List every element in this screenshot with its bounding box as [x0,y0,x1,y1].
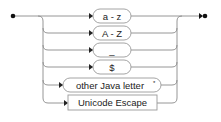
arrow-icon [59,82,63,88]
end-arrow-icon [199,13,203,19]
arrow-icon [89,13,93,19]
label-underscore: _ [108,45,115,56]
end-dot-icon [203,14,208,19]
arrow-icon [89,47,93,53]
label-a-z: a - z [103,11,122,22]
arrow-icon [89,64,93,70]
label-dollar: $ [109,62,115,73]
label-unicode-escape: Unicode Escape [78,97,147,108]
start-dot-icon [11,14,16,19]
label-other-java-letter: other Java letter [76,80,144,91]
railroad-diagram: a - z A - Z _ $ other Java letter Unicod… [0,0,221,122]
arrow-icon [64,100,68,106]
left-branch [38,16,66,103]
label-A-Z: A - Z [102,28,122,39]
right-branch [157,16,182,103]
arrow-icon [89,30,93,36]
